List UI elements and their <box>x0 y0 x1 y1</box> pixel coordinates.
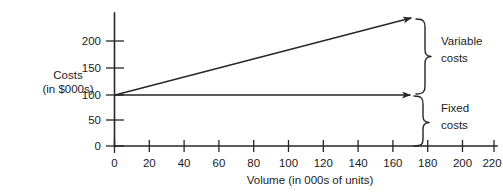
x-tick-label-40: 40 <box>178 157 191 169</box>
fixed-costs-label-line2: costs <box>441 119 468 131</box>
variable-costs-label-line1: Variable <box>441 35 482 47</box>
variable-costs-label-line2: costs <box>441 52 468 64</box>
x-tick-label-220: 220 <box>482 157 501 169</box>
x-tick-label-160: 160 <box>383 157 402 169</box>
y-tick-label-0: 0 <box>95 140 101 152</box>
x-tick-label-180: 180 <box>418 157 437 169</box>
x-tick-label-20: 20 <box>143 157 156 169</box>
fixed-costs-label-line1: Fixed <box>441 102 469 114</box>
y-tick-label-50: 50 <box>88 114 101 126</box>
y-tick-label-150: 150 <box>82 62 101 74</box>
fixed-costs-annotation: Fixed costs <box>414 96 469 146</box>
x-tick-label-0: 0 <box>111 157 117 169</box>
chart-svg: 200 150 100 50 0 Costs (in $000s) <box>0 0 503 196</box>
x-tick-label-140: 140 <box>349 157 368 169</box>
x-axis-title: Volume (in 000s of units) <box>247 174 374 186</box>
cost-volume-chart: 200 150 100 50 0 Costs (in $000s) <box>0 0 503 196</box>
x-tick-label-100: 100 <box>279 157 298 169</box>
fixed-costs-brace-icon <box>414 96 429 146</box>
total-cost-line <box>115 18 411 95</box>
data-series-group <box>115 18 411 95</box>
y-axis-title-line2: (in $000s) <box>42 83 93 95</box>
x-tick-label-60: 60 <box>213 157 226 169</box>
y-axis-title-line1: Costs <box>53 69 83 81</box>
x-tick-label-80: 80 <box>247 157 260 169</box>
variable-costs-brace-icon <box>416 19 431 94</box>
x-axis-tick-labels: 0 20 40 60 80 100 120 140 160 180 200 22… <box>111 157 501 169</box>
x-tick-label-120: 120 <box>314 157 333 169</box>
variable-costs-annotation: Variable costs <box>416 19 482 94</box>
y-tick-label-200: 200 <box>82 35 101 47</box>
x-tick-label-200: 200 <box>453 157 472 169</box>
